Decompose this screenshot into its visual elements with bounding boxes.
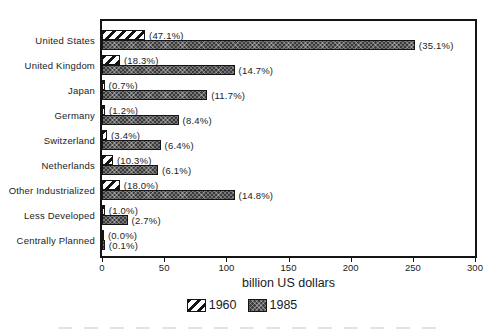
bar-line-1960: (1.2%) — [102, 105, 475, 115]
legend-swatch-1960-hatch-icon — [187, 299, 206, 312]
bar-1960 — [102, 230, 104, 240]
bar-1985 — [102, 165, 158, 175]
bar-line-1960: (0.0%) — [102, 230, 475, 240]
x-tick-label: 0 — [99, 262, 104, 273]
bar-1960 — [102, 130, 107, 140]
bar-1960 — [102, 155, 113, 165]
x-tick-label: 200 — [343, 262, 359, 273]
x-tick-label: 250 — [405, 262, 421, 273]
percent-label: (8.4%) — [183, 115, 212, 126]
bar-line-1960: (1.0%) — [102, 205, 475, 215]
scan-artifact — [58, 327, 443, 329]
bar-line-1985: (6.1%) — [102, 165, 475, 175]
category-label: Other Industrialized — [0, 180, 95, 200]
x-tick-label: 150 — [281, 262, 297, 273]
bar-1960 — [102, 205, 105, 215]
percent-label: (11.7%) — [211, 90, 245, 101]
x-axis-title: billion US dollars — [100, 276, 477, 290]
percent-label: (1.2%) — [109, 105, 138, 116]
legend-item-1960: 1960 — [187, 298, 237, 312]
percent-label: (14.7%) — [239, 65, 274, 76]
bar-row: (3.4%)(6.4%) — [102, 130, 475, 150]
bar-line-1985: (2.7%) — [102, 215, 475, 225]
bar-row: (1.2%)(8.4%) — [102, 105, 475, 125]
category-axis: United StatesUnited KingdomJapanGermanyS… — [0, 21, 95, 256]
category-label: United States — [0, 30, 95, 50]
bar-1960 — [102, 105, 105, 115]
percent-label: (18.3%) — [124, 55, 159, 66]
bar-line-1985: (0.1%) — [102, 240, 475, 250]
x-tick-label: 50 — [159, 262, 170, 273]
bar-chart-figure: United StatesUnited KingdomJapanGermanyS… — [0, 0, 502, 331]
bar-line-1985: (11.7%) — [102, 90, 475, 100]
bar-line-1985: (35.1%) — [102, 40, 475, 50]
percent-label: (6.4%) — [165, 140, 194, 151]
percent-label: (3.4%) — [111, 130, 140, 141]
percent-label: (0.7%) — [109, 80, 138, 91]
percent-label: (14.8%) — [239, 190, 274, 201]
bar-1985 — [102, 215, 128, 225]
bar-1985 — [102, 190, 235, 200]
category-label: Netherlands — [0, 155, 95, 175]
bar-line-1985: (14.7%) — [102, 65, 475, 75]
category-label: Centrally Planned — [0, 230, 95, 250]
percent-label: (10.3%) — [117, 155, 152, 166]
bar-1985 — [102, 40, 415, 50]
legend-label-1985: 1985 — [270, 298, 298, 312]
bar-row: (1.0%)(2.7%) — [102, 205, 475, 225]
bar-row: (18.0%)(14.8%) — [102, 180, 475, 200]
percent-label: (6.1%) — [162, 165, 191, 176]
x-axis: 050100150200250300 — [102, 258, 475, 278]
bar-1985 — [102, 240, 105, 250]
bar-1985 — [102, 115, 179, 125]
legend-item-1985: 1985 — [248, 298, 298, 312]
bar-row: (47.1%)(35.1%) — [102, 30, 475, 50]
legend-swatch-1985-dark-icon — [248, 299, 267, 312]
percent-label: (47.1%) — [149, 30, 184, 41]
x-tick-label: 300 — [467, 262, 483, 273]
bar-1985 — [102, 90, 207, 100]
legend-label-1960: 1960 — [209, 298, 237, 312]
bar-row: (0.0%)(0.1%) — [102, 230, 475, 250]
bar-line-1960: (0.7%) — [102, 80, 475, 90]
bar-line-1960: (18.0%) — [102, 180, 475, 190]
bar-line-1960: (3.4%) — [102, 130, 475, 140]
category-label: United Kingdom — [0, 55, 95, 75]
bar-line-1985: (14.8%) — [102, 190, 475, 200]
bar-line-1985: (6.4%) — [102, 140, 475, 150]
percent-label: (0.1%) — [109, 240, 138, 251]
category-label: Switzerland — [0, 130, 95, 150]
bar-1960 — [102, 55, 120, 65]
bar-1960 — [102, 180, 120, 190]
bar-1985 — [102, 140, 161, 150]
category-label: Japan — [0, 80, 95, 100]
bar-line-1960: (10.3%) — [102, 155, 475, 165]
bar-1960 — [102, 30, 145, 40]
bar-line-1960: (18.3%) — [102, 55, 475, 65]
legend: 1960 1985 — [0, 297, 484, 313]
bar-row: (0.7%)(11.7%) — [102, 80, 475, 100]
bar-row: (10.3%)(6.1%) — [102, 155, 475, 175]
x-tick-label: 100 — [218, 262, 234, 273]
percent-label: (35.1%) — [419, 40, 454, 51]
bar-1985 — [102, 65, 235, 75]
bar-line-1960: (47.1%) — [102, 30, 475, 40]
percent-label: (18.0%) — [124, 180, 159, 191]
bar-row: (18.3%)(14.7%) — [102, 55, 475, 75]
category-label: Less Developed — [0, 205, 95, 225]
bar-1960 — [102, 80, 105, 90]
category-label: Germany — [0, 105, 95, 125]
percent-label: (2.7%) — [132, 215, 161, 226]
plot-frame: (47.1%)(35.1%)(18.3%)(14.7%)(0.7%)(11.7%… — [100, 19, 477, 258]
plot-area: (47.1%)(35.1%)(18.3%)(14.7%)(0.7%)(11.7%… — [102, 21, 475, 256]
bar-line-1985: (8.4%) — [102, 115, 475, 125]
